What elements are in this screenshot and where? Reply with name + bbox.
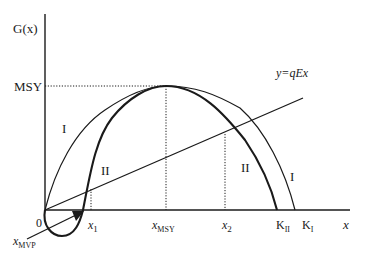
growth-curve-I	[45, 86, 295, 210]
line-label: y=qEx	[275, 66, 309, 80]
x1-label: x1	[87, 218, 98, 234]
curve-II-label-left: II	[101, 163, 110, 178]
xmsy-label: xMSY	[151, 218, 175, 234]
msy-label: MSY	[14, 79, 43, 94]
bioeconomic-growth-diagram: G(x) MSY 0 y=qEx x I I II II x1 xMSY x2 …	[0, 0, 365, 261]
curve-II-label-right: II	[241, 160, 250, 175]
x2-label: x2	[221, 218, 232, 234]
kI-label: KI	[302, 218, 314, 234]
origin-label: 0	[36, 216, 42, 230]
harvest-line	[45, 98, 303, 210]
curve-I-label-left: I	[62, 121, 66, 136]
y-axis-label: G(x)	[13, 21, 38, 36]
curve-I-label-right: I	[290, 169, 294, 184]
x-axis-label: x	[342, 217, 349, 232]
kII-label: KII	[276, 218, 290, 234]
